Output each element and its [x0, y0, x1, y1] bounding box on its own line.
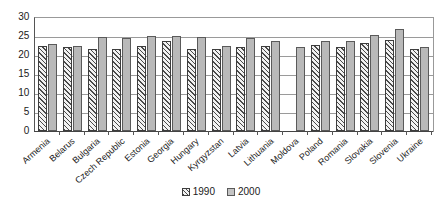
bar-2000 [420, 47, 429, 131]
bar-group [35, 17, 60, 131]
legend-swatch-icon [227, 188, 235, 196]
bar-group [234, 17, 259, 131]
bar-2000 [271, 41, 280, 131]
chart-legend: 19902000 [0, 186, 442, 197]
bar-group [258, 17, 283, 131]
y-tick-label: 15 [18, 69, 29, 79]
bar-1990 [212, 49, 221, 131]
bar-2000 [172, 36, 181, 131]
y-tick-label: 10 [18, 88, 29, 98]
y-tick-label: 20 [18, 50, 29, 60]
bar-1990 [38, 46, 47, 131]
bar-group [209, 17, 234, 131]
legend-label: 1990 [193, 186, 215, 197]
bar-group [159, 17, 184, 131]
bar-group [283, 17, 308, 131]
legend-label: 2000 [238, 186, 260, 197]
bar-group [358, 17, 383, 131]
bar-2000 [48, 44, 57, 131]
y-tick-label: 0 [24, 126, 29, 136]
bar-2000 [73, 46, 82, 131]
bar-group [184, 17, 209, 131]
bar-2000 [98, 37, 107, 131]
y-tick-label: 25 [18, 31, 29, 41]
y-tick-label: 30 [18, 12, 29, 22]
bar-1990 [261, 46, 270, 131]
legend-swatch-icon [182, 188, 190, 196]
bar-group [407, 17, 432, 131]
bar-2000 [370, 35, 379, 131]
bar-2000 [395, 29, 404, 131]
bar-1990 [336, 47, 345, 131]
bar-2000 [122, 38, 131, 131]
y-axis: 302520151050 [0, 0, 32, 208]
bar-1990 [162, 41, 171, 131]
x-axis-labels: ArmeniaBelarusBulgariaCzech RepublicEsto… [35, 134, 432, 182]
bar-2000 [197, 37, 206, 131]
bar-2000 [321, 41, 330, 131]
bar-1990 [410, 49, 419, 131]
bar-1990 [63, 47, 72, 131]
bar-1990 [112, 49, 121, 131]
bar-1990 [385, 40, 394, 131]
bar-2000 [246, 38, 255, 131]
bar-group [60, 17, 85, 131]
bar-1990 [360, 43, 369, 131]
bar-1990 [311, 45, 320, 131]
x-label-cell: Kyrgyzstan [209, 134, 234, 182]
bar-1990 [236, 47, 245, 131]
bar-group [134, 17, 159, 131]
legend-entry: 1990 [182, 186, 215, 197]
legend-entry: 2000 [227, 186, 260, 197]
bar-group [333, 17, 358, 131]
y-tick-label: 5 [24, 107, 29, 117]
bar-group [109, 17, 134, 131]
bar-2000 [296, 47, 305, 131]
bar-1990 [187, 49, 196, 131]
bar-2000 [222, 46, 231, 131]
bars-layer [35, 17, 432, 131]
bar-2000 [346, 41, 355, 131]
bar-group [85, 17, 110, 131]
bar-2000 [147, 36, 156, 131]
bar-chart: 302520151050 ArmeniaBelarusBulgariaCzech… [0, 0, 442, 208]
bar-1990 [88, 49, 97, 131]
x-label-cell: Ukraine [407, 134, 432, 182]
bar-1990 [137, 46, 146, 132]
bar-group [308, 17, 333, 131]
chart-plot-wrapper: 302520151050 ArmeniaBelarusBulgariaCzech… [0, 0, 442, 208]
bar-group [382, 17, 407, 131]
